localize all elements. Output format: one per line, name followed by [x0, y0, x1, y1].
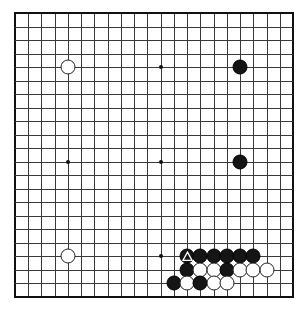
grid-line-vertical	[28, 13, 29, 297]
go-diagram: Go board position	[0, 0, 305, 314]
grid-line-horizontal	[15, 121, 293, 122]
star-point	[159, 65, 163, 69]
stone-white[interactable]	[219, 276, 234, 291]
grid-line-horizontal	[15, 40, 293, 41]
grid-line-vertical	[147, 13, 148, 297]
grid-line-horizontal	[15, 108, 293, 109]
star-point	[66, 160, 70, 164]
grid-line-vertical	[292, 12, 294, 298]
stone-white[interactable]	[259, 262, 274, 277]
grid-line-horizontal	[15, 148, 293, 149]
grid-line-horizontal	[15, 81, 293, 82]
grid-line-horizontal	[15, 202, 293, 203]
grid-line-horizontal	[15, 243, 293, 244]
diagram-title: Go board position	[0, 0, 1, 1]
stone-white[interactable]	[60, 60, 75, 75]
grid-line-horizontal	[15, 189, 293, 190]
grid-line-vertical	[41, 13, 42, 297]
grid-line-horizontal	[15, 175, 293, 176]
go-board[interactable]	[15, 13, 293, 297]
grid-line-horizontal	[15, 54, 293, 55]
grid-line-vertical	[280, 13, 281, 297]
grid-line-vertical	[267, 13, 268, 297]
grid-line-vertical	[81, 13, 82, 297]
grid-line-vertical	[134, 13, 135, 297]
grid-line-horizontal	[15, 283, 293, 284]
grid-line-vertical	[174, 13, 175, 297]
grid-line-vertical	[14, 12, 16, 298]
star-point	[159, 254, 163, 258]
stone-white[interactable]	[60, 249, 75, 264]
stone-black[interactable]	[233, 60, 248, 75]
grid-line-horizontal	[14, 296, 294, 298]
grid-line-horizontal	[15, 216, 293, 217]
star-point	[159, 160, 163, 164]
grid-line-vertical	[94, 13, 95, 297]
stone-black[interactable]	[233, 154, 248, 169]
grid-line-vertical	[121, 13, 122, 297]
grid-line-vertical	[55, 13, 56, 297]
triangle-marker-icon	[182, 251, 193, 262]
grid-line-horizontal	[15, 67, 293, 68]
grid-line-horizontal	[15, 162, 293, 163]
grid-line-vertical	[108, 13, 109, 297]
grid-line-horizontal	[15, 94, 293, 95]
grid-line-horizontal	[15, 135, 293, 136]
grid-line-horizontal	[15, 27, 293, 28]
grid-line-horizontal	[14, 12, 294, 14]
grid-line-horizontal	[15, 229, 293, 230]
